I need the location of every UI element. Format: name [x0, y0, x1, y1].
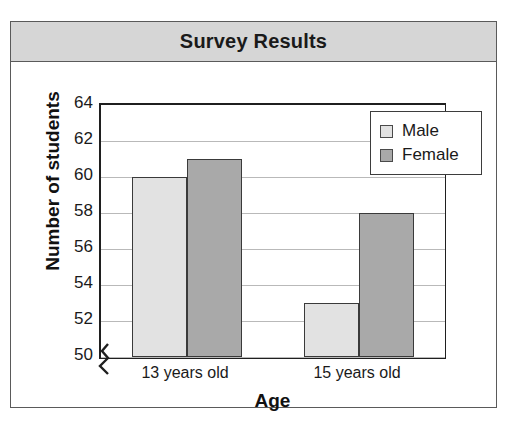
bar-female-1: [359, 213, 414, 357]
chart-card: Survey Results Number of students 646260…: [10, 21, 497, 408]
y-axis-tick-label: 54: [74, 273, 93, 293]
legend-item-female: Female: [380, 143, 472, 167]
x-axis-tick-label: 15 years old: [313, 364, 400, 382]
y-axis-tick-label: 52: [74, 309, 93, 329]
bar-male-0: [132, 177, 187, 357]
y-axis-tick-label: 62: [74, 129, 93, 149]
y-axis-tick-label: 56: [74, 237, 93, 257]
chart-body: Number of students 6462605856545250 Male…: [11, 62, 496, 407]
gridline: [101, 357, 445, 358]
bar-female-0: [187, 159, 242, 357]
legend-label-female: Female: [402, 145, 459, 165]
y-axis-tick-label: 60: [74, 165, 93, 185]
bar-male-1: [304, 303, 359, 357]
legend-label-male: Male: [402, 121, 439, 141]
x-axis-title: Age: [99, 390, 446, 412]
chart-title-band: Survey Results: [11, 22, 496, 62]
legend-swatch-male-icon: [380, 125, 393, 138]
y-axis-tick-label: 64: [74, 93, 93, 113]
y-axis-tick-labels: 6462605856545250: [53, 62, 93, 407]
legend-item-male: Male: [380, 119, 472, 143]
y-axis-tick-label: 58: [74, 201, 93, 221]
page-title: Survey Results: [180, 30, 327, 53]
chart-page: { "card": { "title": "Survey Results" },…: [0, 0, 509, 423]
x-axis-tick-label: 13 years old: [141, 364, 228, 382]
axis-break-icon: [89, 343, 111, 377]
chart-legend: Male Female: [370, 111, 482, 175]
legend-swatch-female-icon: [380, 149, 393, 162]
